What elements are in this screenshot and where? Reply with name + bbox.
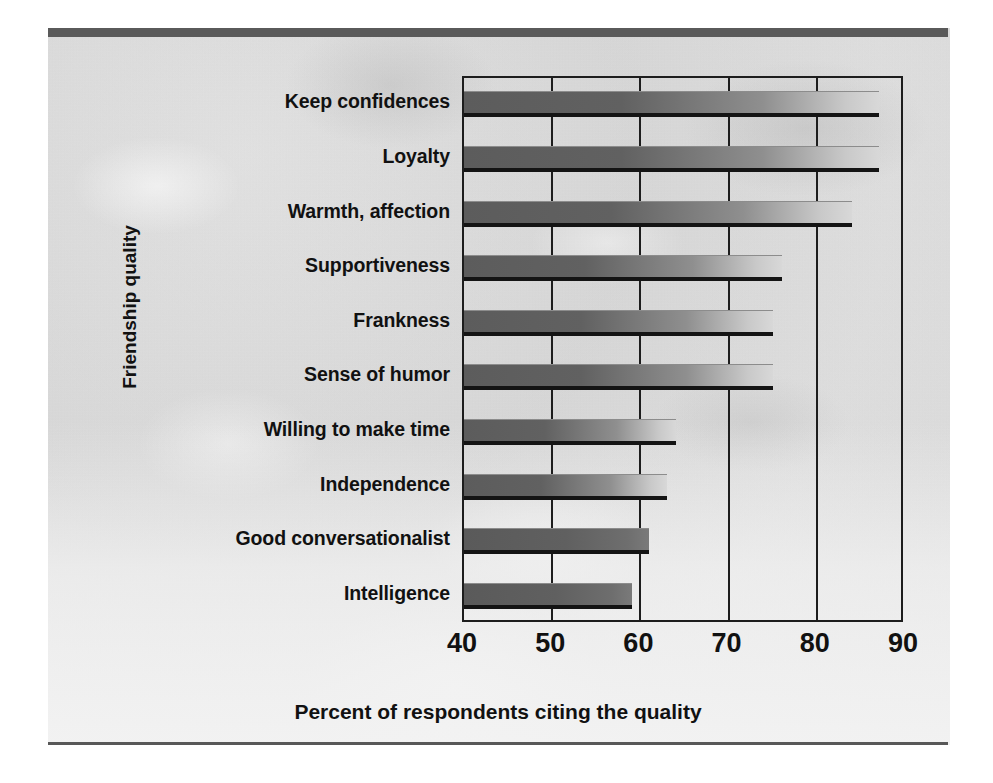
bar-shadow: [464, 277, 782, 281]
bar-3: [464, 201, 852, 227]
bar-shadow: [464, 386, 773, 390]
bar-fill: [464, 474, 667, 496]
category-label-3: Warmth, affection: [288, 200, 450, 223]
category-label-9: Good conversationalist: [235, 527, 450, 550]
x-tick-40: 40: [432, 628, 492, 659]
category-label-4: Supportiveness: [305, 254, 450, 277]
category-label-1: Keep confidences: [285, 90, 450, 113]
bar-fill: [464, 255, 782, 277]
bar-shadow: [464, 441, 676, 445]
figure-top-rule: [48, 28, 948, 37]
bar-shadow: [464, 168, 879, 172]
bar-shadow: [464, 332, 773, 336]
bar-fill: [464, 91, 879, 113]
bar-fill: [464, 528, 649, 550]
bar-fill: [464, 364, 773, 386]
bar-7: [464, 419, 676, 445]
bar-9: [464, 528, 649, 554]
category-label-6: Sense of humor: [304, 363, 450, 386]
bar-2: [464, 146, 879, 172]
bar-fill: [464, 146, 879, 168]
bar-5: [464, 310, 773, 336]
bar-6: [464, 364, 773, 390]
bar-shadow: [464, 223, 852, 227]
bar-shadow: [464, 605, 632, 609]
bar-fill: [464, 419, 676, 441]
category-label-2: Loyalty: [382, 145, 450, 168]
category-label-5: Frankness: [353, 309, 450, 332]
bar-shadow: [464, 113, 879, 117]
x-tick-50: 50: [520, 628, 580, 659]
bar-fill: [464, 583, 632, 605]
plot-area: [462, 76, 903, 622]
x-tick-90: 90: [873, 628, 933, 659]
bar-fill: [464, 310, 773, 332]
y-axis-title: Friendship quality: [119, 207, 141, 407]
bar-10: [464, 583, 632, 609]
figure-bottom-rule: [48, 742, 948, 745]
bar-fill: [464, 201, 852, 223]
bar-1: [464, 91, 879, 117]
bar-8: [464, 474, 667, 500]
bar-shadow: [464, 496, 667, 500]
category-label-8: Independence: [320, 473, 450, 496]
x-tick-60: 60: [608, 628, 668, 659]
category-label-10: Intelligence: [344, 582, 450, 605]
category-label-7: Willing to make time: [264, 418, 450, 441]
bar-shadow: [464, 550, 649, 554]
bar-4: [464, 255, 782, 281]
x-tick-80: 80: [785, 628, 845, 659]
x-tick-70: 70: [697, 628, 757, 659]
x-axis-title: Percent of respondents citing the qualit…: [48, 700, 948, 724]
chart-figure: Friendship quality Keep confidencesLoyal…: [48, 28, 950, 745]
